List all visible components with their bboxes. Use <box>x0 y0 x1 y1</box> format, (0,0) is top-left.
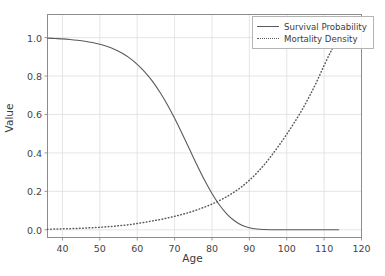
y-tick-label: 0.8 <box>8 71 42 82</box>
y-tick-label: 0.4 <box>8 147 42 158</box>
y-tick-label: 0.2 <box>8 186 42 197</box>
y-tick-label: 1.0 <box>8 32 42 43</box>
legend-item-survival-probability: Survival Probability <box>257 21 367 32</box>
legend-line-dotted-icon <box>257 34 279 44</box>
series-mortality-density <box>48 38 340 230</box>
chart-legend: Survival Probability Mortality Density <box>252 16 374 49</box>
axis-ticks <box>45 38 362 241</box>
chart-figure: 405060708090100110120 0.00.20.40.60.81.0… <box>0 0 385 276</box>
data-series <box>48 38 340 230</box>
series-survival-probability <box>48 38 340 230</box>
y-axis-label: Value <box>3 93 15 143</box>
y-tick-label: 0.0 <box>8 224 42 235</box>
x-axis-label: Age <box>0 252 385 264</box>
legend-label: Mortality Density <box>284 34 357 44</box>
legend-line-solid-icon <box>257 22 279 32</box>
legend-item-mortality-density: Mortality Density <box>257 33 367 44</box>
legend-label: Survival Probability <box>284 22 367 32</box>
